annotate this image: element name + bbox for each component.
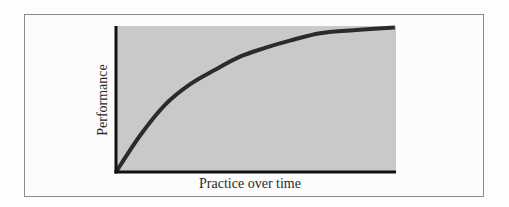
y-axis-label: Performance xyxy=(95,64,111,136)
plot-area xyxy=(116,26,396,172)
x-axis-label: Practice over time xyxy=(199,176,301,192)
